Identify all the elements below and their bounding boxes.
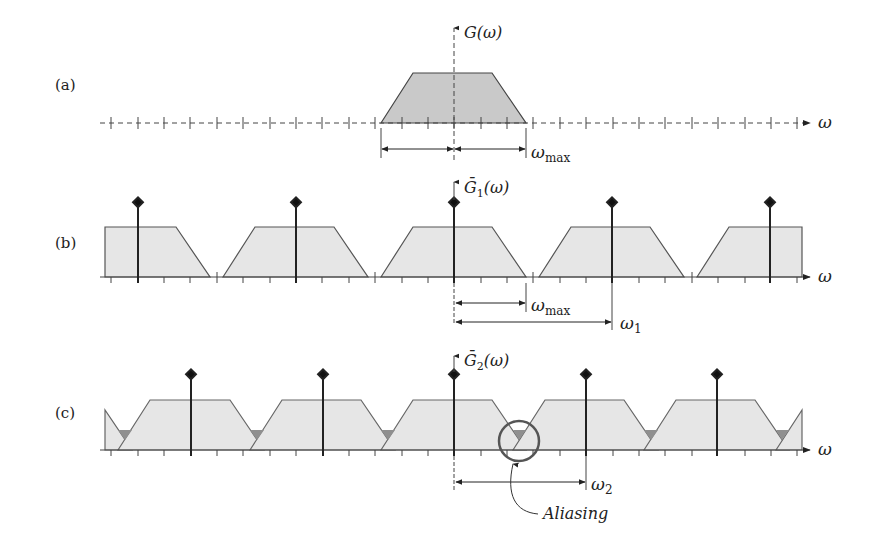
omega-axis-label-b: ω — [818, 266, 832, 286]
panel-b-label: (b) — [55, 234, 76, 252]
omega-max-label-a: ωmax — [531, 142, 570, 165]
panel-a: (a) ω G(ω) — [55, 23, 832, 165]
axis-title-a: G(ω) — [464, 23, 502, 42]
omega-axis-label-c: ω — [818, 439, 832, 459]
axis-title-b: Ḡ1(ω) — [464, 176, 509, 200]
omega-max-label-b: ωmax — [531, 295, 570, 318]
panel-b: (b) ω — [55, 176, 832, 336]
omega-1-label: ω1 — [620, 313, 642, 336]
panel-c: (c) — [55, 349, 832, 523]
omega-2-label: ω2 — [591, 474, 613, 497]
axis-title-c: Ḡ2(ω) — [464, 349, 509, 373]
aliasing-annotation: Aliasing — [541, 504, 608, 523]
omega-axis-label-a: ω — [818, 112, 832, 132]
panel-a-label: (a) — [55, 76, 76, 94]
aliasing-pointer-arrow — [511, 464, 538, 514]
panel-c-label: (c) — [55, 404, 75, 422]
sampling-aliasing-diagram: (a) ω G(ω) — [0, 0, 879, 543]
